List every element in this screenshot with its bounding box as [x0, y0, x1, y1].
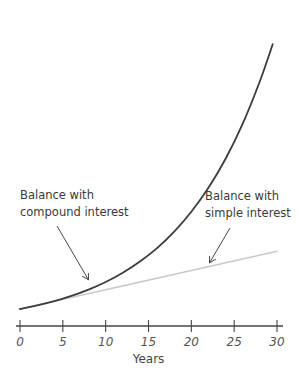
- x-tick-label: 20: [184, 335, 200, 349]
- annotation-compound-line1: Balance with: [20, 188, 94, 202]
- series-line-compound: [20, 44, 273, 309]
- annotation-compound: Balance with compound interest: [20, 188, 129, 279]
- annotation-compound-arrow: [57, 226, 88, 279]
- x-tick-label: 25: [227, 335, 242, 349]
- x-tick-label: 15: [141, 335, 156, 349]
- x-tick-label: 10: [98, 335, 114, 349]
- series-layer: [20, 44, 277, 309]
- annotation-simple-line1: Balance with: [205, 189, 279, 203]
- annotation-simple-line2: simple interest: [205, 206, 291, 220]
- x-tick-label: 30: [269, 335, 285, 349]
- annotation-simple: Balance with simple interest: [205, 189, 291, 262]
- x-ticks: 051015202530: [16, 320, 285, 349]
- annotation-compound-line2: compound interest: [20, 205, 129, 219]
- annotation-simple-arrow: [210, 228, 230, 262]
- chart: 051015202530 Years Balance with compound…: [0, 0, 302, 381]
- x-tick-label: 0: [16, 335, 24, 349]
- x-axis-title: Years: [132, 352, 165, 366]
- x-tick-label: 5: [59, 335, 67, 349]
